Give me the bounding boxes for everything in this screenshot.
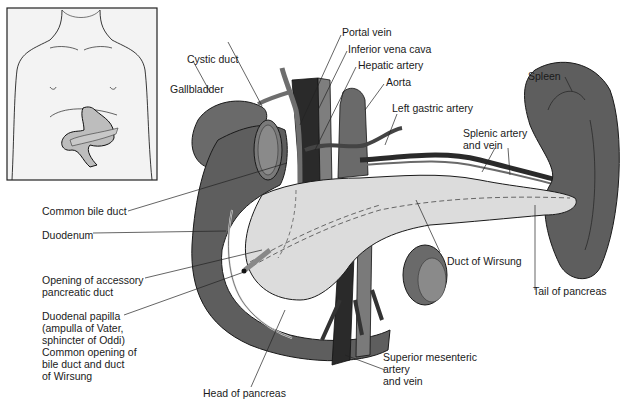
- label-cystic-duct: Cystic duct: [187, 53, 238, 65]
- label-superior-mesenteric: Superior mesenteric artery and vein: [383, 351, 477, 387]
- label-common-bile-duct: Common bile duct: [42, 205, 127, 217]
- label-tail-of-pancreas: Tail of pancreas: [533, 285, 607, 297]
- portal-vein: [318, 78, 332, 185]
- label-duodenal-papilla: Duodenal papilla (ampulla of Vater, sphi…: [42, 310, 137, 382]
- label-inferior-vena-cava: Inferior vena cava: [348, 43, 431, 55]
- label-opening-accessory-duct: Opening of accessory pancreatic duct: [42, 274, 144, 298]
- label-spleen: Spleen: [528, 70, 561, 82]
- label-portal-vein: Portal vein: [342, 26, 392, 38]
- label-left-gastric-artery: Left gastric artery: [392, 102, 473, 114]
- label-duct-of-wirsung: Duct of Wirsung: [447, 255, 522, 267]
- label-head-of-pancreas: Head of pancreas: [203, 387, 286, 399]
- label-aorta: Aorta: [386, 76, 411, 88]
- label-hepatic-artery: Hepatic artery: [358, 59, 423, 71]
- label-gallbladder: Gallbladder: [170, 83, 224, 95]
- label-duodenum: Duodenum: [42, 229, 93, 241]
- label-splenic-artery-vein: Splenic artery and vein: [463, 127, 527, 151]
- spleen-shape: [525, 62, 620, 278]
- inset-body-figure: [7, 8, 157, 180]
